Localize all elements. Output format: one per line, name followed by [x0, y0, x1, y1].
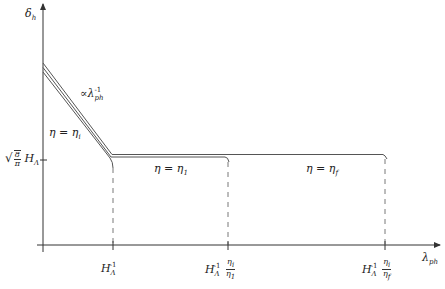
eta-1-annotation: η = η1	[154, 163, 188, 177]
x-axis-label: λph	[422, 252, 438, 266]
eta-f-annotation: η = ηf	[306, 163, 338, 177]
y-axis-label: δh	[25, 8, 36, 22]
x-tick-label-3: HΛ-1 ηiηf	[362, 258, 391, 281]
diagram-canvas	[0, 0, 445, 289]
eta-i-annotation: η = ηi	[49, 127, 81, 141]
x-tick-label-2: HΛ-1 ηiη1	[205, 258, 236, 281]
y-tick-label: √8π HΛ	[5, 150, 39, 168]
curve-eta-1	[43, 68, 229, 163]
curve-eta-i	[43, 72, 113, 168]
sqrt-symbol: √	[5, 151, 13, 165]
slope-annotation: ∝λph-1	[80, 87, 101, 102]
x-tick-label-1: HΛ-1	[101, 262, 116, 277]
curve-eta-f	[43, 63, 387, 159]
